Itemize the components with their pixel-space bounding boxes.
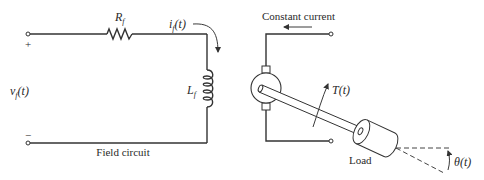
armature-bottom-terminal: [329, 139, 333, 143]
field-circuit-caption: Field circuit: [96, 146, 149, 158]
top-brush: [262, 66, 270, 73]
field-minus-terminal: [26, 141, 30, 145]
bottom-brush: [262, 103, 270, 110]
armature-top-terminal: [329, 32, 333, 36]
field-plus-terminal: [26, 32, 30, 36]
current-arg: (t): [175, 17, 186, 31]
voltage-arg: (t): [18, 84, 29, 98]
armature-circuit: Constant current T(t) Load: [251, 10, 471, 173]
resistor-rf-symbol: [107, 29, 132, 39]
voltage-label: vf(t): [10, 84, 29, 100]
load-label: Load: [349, 154, 372, 166]
angle-label: θ(t): [454, 155, 471, 169]
constant-current-label: Constant current: [262, 10, 335, 22]
resistor-subscript: f: [122, 17, 126, 26]
minus-sign: −: [25, 129, 31, 141]
torque-arg: (t): [339, 83, 350, 97]
inductor-subscript: f: [194, 90, 198, 99]
shaft-angle-dashed-line: [396, 148, 444, 173]
field-current-arrow-icon: [193, 24, 218, 52]
angle-arg: (t): [460, 155, 471, 169]
plus-sign: +: [25, 38, 31, 50]
inductor-label: Lf: [186, 83, 198, 99]
dc-motor-diagram: + − vf(t) Rf if(t) Lf Field circuit Cons…: [0, 0, 484, 180]
angle-arrow-icon: [448, 151, 450, 170]
torque-label: T(t): [332, 83, 350, 97]
armature-top-wire: [266, 34, 329, 66]
field-circuit: + − vf(t) Rf if(t) Lf Field circuit: [10, 10, 218, 158]
current-label: if(t): [169, 17, 186, 33]
inductor-lf-symbol: [203, 70, 212, 107]
resistor-label: Rf: [114, 10, 126, 26]
